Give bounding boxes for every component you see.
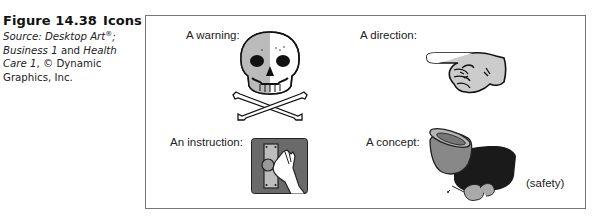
label-instruction: An instruction: [170, 136, 243, 148]
source-publisher: Graphics, Inc. [3, 72, 73, 83]
source-health: Health [83, 45, 116, 56]
caption-source: Source: Desktop Art®; Business 1 and Hea… [3, 28, 143, 84]
safety-note: (safety) [526, 177, 564, 189]
source-business: Business 1 [3, 45, 58, 56]
source-and: and [58, 45, 84, 56]
pointing-hand-icon [424, 50, 508, 96]
label-concept: A concept: [366, 136, 420, 148]
skull-crossbones-icon [232, 28, 308, 122]
label-direction: A direction: [360, 29, 417, 41]
figure-number: Figure 14.38 [3, 13, 97, 28]
source-prefix: Source: Desktop Art [3, 31, 105, 42]
hand-on-panel-icon [251, 138, 308, 194]
source-copyright: , © Dynamic [37, 58, 102, 69]
safety-gear-icon [424, 126, 524, 204]
figure-caption: Figure 14.38Icons Source: Desktop Art®; … [3, 13, 143, 84]
figure-title: Icons [103, 13, 142, 28]
source-suffix: ; [112, 31, 115, 42]
caption-title: Figure 14.38Icons [3, 13, 143, 28]
source-care: Care 1 [3, 58, 37, 69]
